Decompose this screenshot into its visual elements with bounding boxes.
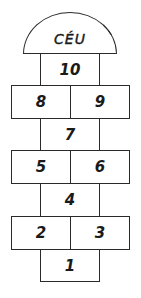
square-6: 6 — [70, 150, 130, 184]
square-7: 7 — [40, 118, 100, 151]
square-3: 3 — [70, 216, 130, 250]
square-9: 9 — [70, 85, 130, 119]
sky-label: CÉU — [54, 31, 86, 47]
square-1: 1 — [40, 249, 100, 282]
square-label: 3 — [95, 224, 105, 242]
square-label: 7 — [65, 126, 75, 144]
square-label: 4 — [65, 191, 75, 209]
square-5: 5 — [11, 150, 71, 184]
square-label: 2 — [36, 224, 46, 242]
square-label: 8 — [36, 93, 46, 111]
square-label: 6 — [95, 158, 105, 176]
square-label: 1 — [65, 257, 75, 275]
square-label: 10 — [60, 61, 81, 79]
sky-dome: CÉU — [23, 12, 117, 54]
square-10: 10 — [40, 53, 100, 86]
square-label: 5 — [36, 158, 46, 176]
square-4: 4 — [40, 183, 100, 217]
square-label: 9 — [95, 93, 105, 111]
square-2: 2 — [11, 216, 71, 250]
square-8: 8 — [11, 85, 71, 119]
